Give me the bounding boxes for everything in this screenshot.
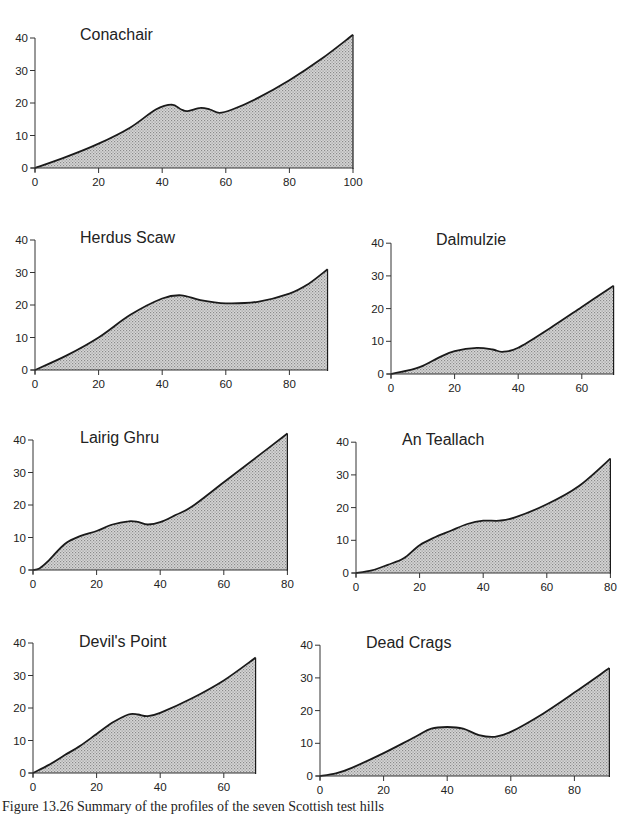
profile-area bbox=[320, 668, 609, 776]
y-tick-label: 40 bbox=[371, 237, 384, 249]
x-tick-label: 20 bbox=[377, 784, 390, 796]
y-tick-label: 30 bbox=[336, 469, 349, 481]
y-tick-label: 10 bbox=[13, 735, 26, 747]
y-tick-label: 10 bbox=[300, 737, 313, 749]
profile-area bbox=[35, 35, 353, 168]
chart-an-teallach: 010203040020406080An Teallach bbox=[336, 431, 617, 593]
y-tick-label: 30 bbox=[15, 267, 28, 279]
y-tick-label: 20 bbox=[371, 303, 384, 315]
y-tick-label: 40 bbox=[13, 434, 26, 446]
figure-caption: Figure 13.26 Summary of the profiles of … bbox=[2, 799, 384, 815]
profile-charts: 010203040020406080100Conachair0102030400… bbox=[13, 26, 617, 796]
profile-area bbox=[33, 434, 287, 571]
chart-title: Dalmulzie bbox=[436, 231, 506, 248]
x-tick-label: 40 bbox=[477, 581, 490, 593]
x-tick-label: 20 bbox=[413, 581, 426, 593]
chart-dalmulzie: 0102030400204060Dalmulzie bbox=[371, 231, 613, 394]
y-tick-label: 10 bbox=[15, 332, 28, 344]
y-tick-label: 30 bbox=[15, 65, 28, 77]
y-tick-label: 40 bbox=[13, 637, 26, 649]
y-tick-label: 0 bbox=[307, 770, 313, 782]
chart-title: Lairig Ghru bbox=[80, 429, 159, 446]
chart-lairig-ghru: 010203040020406080Lairig Ghru bbox=[13, 429, 294, 590]
y-tick-label: 20 bbox=[13, 702, 26, 714]
y-tick-label: 30 bbox=[13, 467, 26, 479]
chart-herdus-scaw: 010203040020406080Herdus Scaw bbox=[15, 229, 327, 390]
x-tick-label: 60 bbox=[540, 581, 553, 593]
chart-devil-s-point: 0102030400204060Devil's Point bbox=[13, 633, 255, 793]
y-tick-label: 30 bbox=[300, 672, 313, 684]
y-tick-label: 30 bbox=[13, 670, 26, 682]
x-tick-label: 40 bbox=[512, 382, 525, 394]
profile-area bbox=[356, 459, 610, 573]
x-tick-label: 0 bbox=[32, 378, 38, 390]
y-tick-label: 30 bbox=[371, 270, 384, 282]
y-tick-label: 40 bbox=[300, 639, 313, 651]
y-tick-label: 20 bbox=[15, 97, 28, 109]
x-tick-label: 80 bbox=[281, 578, 294, 590]
x-tick-label: 20 bbox=[92, 176, 105, 188]
y-tick-label: 0 bbox=[343, 567, 349, 579]
x-tick-label: 20 bbox=[90, 578, 103, 590]
profile-area bbox=[35, 269, 328, 370]
y-tick-label: 20 bbox=[13, 499, 26, 511]
x-tick-label: 60 bbox=[504, 784, 517, 796]
x-tick-label: 20 bbox=[90, 781, 103, 793]
y-tick-label: 0 bbox=[22, 364, 28, 376]
x-tick-label: 100 bbox=[343, 176, 362, 188]
chart-title: Herdus Scaw bbox=[80, 229, 176, 246]
chart-dead-crags: 010203040020406080Dead Crags bbox=[300, 634, 609, 796]
y-tick-label: 10 bbox=[13, 532, 26, 544]
y-tick-label: 20 bbox=[336, 502, 349, 514]
profile-area bbox=[391, 286, 614, 374]
x-tick-label: 80 bbox=[568, 784, 581, 796]
x-tick-label: 0 bbox=[30, 578, 36, 590]
x-tick-label: 0 bbox=[317, 784, 323, 796]
x-tick-label: 80 bbox=[604, 581, 617, 593]
x-tick-label: 80 bbox=[283, 176, 296, 188]
y-tick-label: 10 bbox=[15, 130, 28, 142]
x-tick-label: 0 bbox=[32, 176, 38, 188]
chart-title: Dead Crags bbox=[366, 634, 451, 651]
y-tick-label: 10 bbox=[336, 534, 349, 546]
x-tick-label: 60 bbox=[219, 176, 232, 188]
chart-title: An Teallach bbox=[402, 431, 484, 448]
y-tick-label: 0 bbox=[378, 368, 384, 380]
x-tick-label: 40 bbox=[441, 784, 454, 796]
x-tick-label: 0 bbox=[353, 581, 359, 593]
y-tick-label: 0 bbox=[20, 767, 26, 779]
chart-title: Conachair bbox=[80, 26, 154, 43]
x-tick-label: 60 bbox=[575, 382, 588, 394]
x-tick-label: 40 bbox=[156, 176, 169, 188]
x-tick-label: 20 bbox=[92, 378, 105, 390]
x-tick-label: 0 bbox=[388, 382, 394, 394]
x-tick-label: 60 bbox=[219, 378, 232, 390]
y-tick-label: 20 bbox=[300, 705, 313, 717]
x-tick-label: 0 bbox=[30, 781, 36, 793]
y-tick-label: 40 bbox=[15, 234, 28, 246]
y-tick-label: 10 bbox=[371, 335, 384, 347]
x-tick-label: 20 bbox=[448, 382, 461, 394]
x-tick-label: 80 bbox=[283, 378, 296, 390]
chart-title: Devil's Point bbox=[79, 633, 167, 650]
x-tick-label: 60 bbox=[217, 781, 230, 793]
chart-conachair: 010203040020406080100Conachair bbox=[15, 26, 362, 188]
y-tick-label: 40 bbox=[336, 436, 349, 448]
y-tick-label: 0 bbox=[22, 162, 28, 174]
y-tick-label: 0 bbox=[20, 564, 26, 576]
y-tick-label: 20 bbox=[15, 299, 28, 311]
x-tick-label: 60 bbox=[217, 578, 230, 590]
x-tick-label: 40 bbox=[156, 378, 169, 390]
y-tick-label: 40 bbox=[15, 32, 28, 44]
x-tick-label: 40 bbox=[154, 578, 167, 590]
x-tick-label: 40 bbox=[154, 781, 167, 793]
